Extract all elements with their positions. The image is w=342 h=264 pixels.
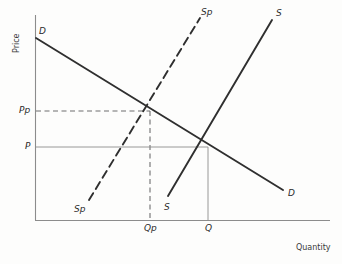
supply-curve-label-bottom: S <box>164 203 170 212</box>
price-policy-tick-label: Pp <box>19 106 30 115</box>
quantity-policy-tick-label: Qp <box>144 224 157 233</box>
x-axis-title: Quantity <box>296 244 331 252</box>
supply-demand-diagram: Price Quantity D D S S Sp Sp Pp P Qp Q <box>0 0 342 264</box>
demand-curve-label-top: D <box>39 27 46 36</box>
supply-policy-curve <box>89 18 200 200</box>
supply-policy-curve-label-bottom: Sp <box>74 205 85 214</box>
supply-policy-curve-label-top: Sp <box>201 8 212 17</box>
supply-curve <box>168 20 272 196</box>
price-market-tick-label: P <box>25 142 30 151</box>
quantity-market-tick-label: Q <box>205 224 212 233</box>
plot-canvas <box>0 0 342 264</box>
y-axis-title: Price <box>13 33 21 53</box>
supply-curve-label-top: S <box>276 9 282 18</box>
demand-curve-label-bottom: D <box>288 189 295 198</box>
demand-curve <box>36 38 283 190</box>
